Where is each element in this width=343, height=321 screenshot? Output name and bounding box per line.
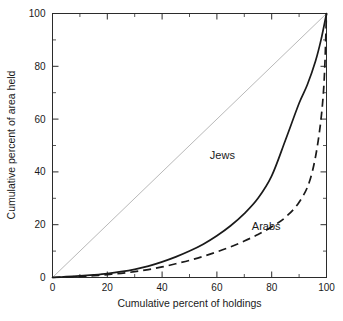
chart-background: [0, 0, 343, 321]
x-tick-label: 0: [50, 282, 56, 293]
y-tick-label: 60: [34, 114, 46, 125]
series-label-jews: Jews: [210, 149, 236, 161]
y-tick-label: 40: [34, 166, 46, 177]
x-axis-title: Cumulative percent of holdings: [117, 297, 261, 309]
x-tick-label: 40: [157, 282, 169, 293]
y-tick-label: 80: [34, 61, 46, 72]
y-axis-title: Cumulative percent of area held: [5, 70, 17, 219]
y-tick-label: 0: [40, 272, 46, 283]
y-tick-label: 100: [29, 8, 46, 19]
y-tick-label: 20: [34, 219, 46, 230]
lorenz-curve-figure: 020406080100 020406080100 JewsArabs Cumu…: [0, 0, 343, 321]
x-tick-label: 20: [102, 282, 114, 293]
x-tick-label: 80: [266, 282, 278, 293]
chart-canvas: 020406080100 020406080100 JewsArabs Cumu…: [0, 0, 343, 321]
x-tick-label: 60: [211, 282, 223, 293]
x-tick-label: 100: [318, 282, 335, 293]
series-label-arabs: Arabs: [252, 220, 281, 232]
